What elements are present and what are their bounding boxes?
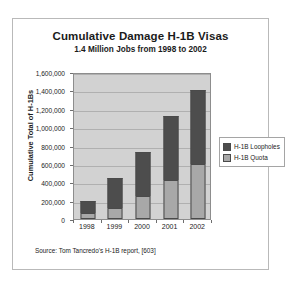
x-axis-tick-mark <box>73 220 74 223</box>
y-axis-tick-mark <box>70 202 73 203</box>
legend-item-quota: H-1B Quota <box>223 152 280 163</box>
bar-stack <box>163 116 178 219</box>
bar-segment-quota <box>108 208 123 219</box>
gridline <box>74 92 210 93</box>
legend-label-quota: H-1B Quota <box>234 154 268 161</box>
chart-legend: H-1B Loopholes H-1B Quota <box>219 137 281 167</box>
y-axis-tick-label: 1,000,000 <box>9 125 65 132</box>
y-axis-tick-label: 800,000 <box>9 143 65 150</box>
chart-title: Cumulative Damage H-1B Visas <box>13 30 268 42</box>
bar-segment-quota <box>80 213 95 219</box>
bar-stack <box>108 178 123 219</box>
x-axis-tick-mark <box>128 220 129 223</box>
legend-item-loopholes: H-1B Loopholes <box>223 141 280 152</box>
gridline <box>74 148 210 149</box>
y-axis-tick-label: 1,600,000 <box>9 70 65 77</box>
x-axis-tick-label: 2002 <box>177 223 217 230</box>
source-note: Source: Tom Tancredo's H-1B report, [603… <box>35 247 156 254</box>
x-axis-tick-mark <box>156 220 157 223</box>
legend-swatch-quota <box>223 154 231 162</box>
y-axis-tick-mark <box>70 110 73 111</box>
y-axis-tick-mark <box>70 91 73 92</box>
y-axis-tick-mark <box>70 147 73 148</box>
bar-stack <box>136 152 151 219</box>
bar-segment-quota <box>136 196 151 219</box>
gridline <box>74 74 210 75</box>
bar-stack <box>191 90 206 219</box>
y-axis-tick-label: 1,400,000 <box>9 88 65 95</box>
y-axis-tick-mark <box>70 165 73 166</box>
y-axis-tick-label: 600,000 <box>9 161 65 168</box>
bar-segment-quota <box>163 180 178 219</box>
bar-stack <box>80 201 95 219</box>
x-axis-tick-mark <box>211 220 212 223</box>
y-axis-tick-label: 0 <box>9 217 65 224</box>
bar-segment-quota <box>191 164 206 219</box>
y-axis-tick-mark <box>70 128 73 129</box>
chart-figure: Cumulative Damage H-1B Visas 1.4 Million… <box>12 18 269 270</box>
legend-label-loopholes: H-1B Loopholes <box>234 143 280 150</box>
y-axis-tick-mark <box>70 73 73 74</box>
y-axis-tick-label: 1,200,000 <box>9 106 65 113</box>
gridline <box>74 129 210 130</box>
x-axis-tick-mark <box>101 220 102 223</box>
chart-subtitle: 1.4 Million Jobs from 1998 to 2002 <box>13 45 268 54</box>
y-axis-tick-label: 200,000 <box>9 198 65 205</box>
bar-segment-loopholes <box>191 90 206 164</box>
y-axis-tick-mark <box>70 183 73 184</box>
gridline <box>74 111 210 112</box>
legend-swatch-loopholes <box>223 143 231 151</box>
y-axis-tick-label: 400,000 <box>9 180 65 187</box>
bar-segment-loopholes <box>108 178 123 209</box>
bar-segment-loopholes <box>163 116 178 180</box>
plot-area <box>73 73 211 220</box>
x-axis-tick-mark <box>183 220 184 223</box>
bar-segment-loopholes <box>136 152 151 196</box>
bar-segment-loopholes <box>80 201 95 213</box>
